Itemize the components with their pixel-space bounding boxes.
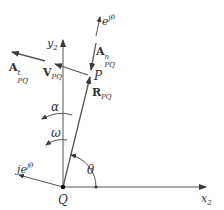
x-axis-label: x2: [201, 193, 212, 207]
at-pq-label: AtPQ: [9, 62, 28, 85]
v-pq-label: VPQ: [43, 67, 62, 81]
r-pq-vector: [63, 77, 90, 187]
at-pq-supsub: tPQ: [18, 69, 28, 85]
an-pq-sup: n: [105, 53, 115, 61]
ejtheta-sup: jθ: [109, 14, 115, 22]
theta-label: θ: [87, 164, 94, 176]
omega-arc: [46, 140, 67, 145]
vector-diagram: [0, 0, 224, 210]
omega-label: ω: [51, 127, 61, 139]
point-q-label: Q: [58, 194, 68, 206]
jejtheta-sup: jθ: [27, 162, 33, 170]
r-pq-label: RPQ: [92, 87, 112, 101]
an-pq-label: AnPQ: [96, 46, 115, 69]
alpha-label: α: [51, 101, 59, 113]
at-pq-base: A: [9, 61, 18, 74]
r-pq-sub: PQ: [101, 93, 111, 101]
point-q: [61, 185, 66, 190]
ejtheta-vector: [96, 17, 100, 36]
at-pq-sub: PQ: [18, 77, 28, 85]
an-pq-sub: PQ: [105, 61, 115, 69]
at-pq-vector: [12, 52, 45, 61]
jejtheta-label: jejθ: [17, 163, 33, 175]
point-p-label: P: [94, 70, 102, 82]
y-axis-sub: 2: [53, 44, 57, 52]
ejtheta-label: ejθ: [102, 15, 115, 27]
an-pq-supsub: nPQ: [105, 53, 115, 69]
at-pq-sup: t: [18, 69, 28, 77]
x-axis-sub: 2: [207, 199, 211, 207]
jejtheta-vector: [19, 175, 63, 187]
v-pq-sub: PQ: [52, 73, 62, 81]
v-pq-base: V: [43, 66, 52, 79]
an-pq-base: A: [96, 45, 105, 58]
jejtheta-base: je: [17, 163, 27, 176]
r-pq-base: R: [92, 86, 101, 99]
alpha-arc: [42, 113, 72, 119]
theta-arc-end-dot: [95, 186, 98, 189]
y-axis-label: y2: [47, 38, 58, 52]
